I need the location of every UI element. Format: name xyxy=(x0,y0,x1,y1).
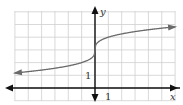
y-axis-up-arrow-icon xyxy=(92,6,99,14)
y-unit-tick-label: 1 xyxy=(85,70,91,81)
curve-left-arrow-icon xyxy=(13,69,22,75)
x-axis-label: x xyxy=(170,91,176,102)
x-axis-left-arrow-icon xyxy=(5,85,13,92)
cube-root-graph: y x 1 1 xyxy=(0,0,183,105)
curve-right-arrow-icon xyxy=(168,25,177,31)
y-axis-label: y xyxy=(99,6,106,17)
x-unit-tick-label: 1 xyxy=(105,91,111,102)
